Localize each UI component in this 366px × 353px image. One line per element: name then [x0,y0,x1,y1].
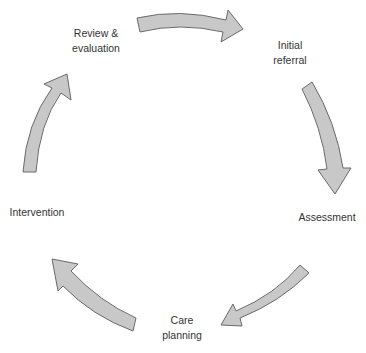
stage-label-line: planning [152,328,212,343]
arrow-review-to-referral [137,10,243,42]
stage-label-line: evaluation [66,41,126,56]
stage-label-line: Initial [260,38,320,53]
stage-label-line: Assessment [294,210,360,225]
stage-label-line: Intervention [4,205,70,220]
arrow-intervention-to-review [23,74,71,172]
arrow-referral-to-assessment [302,82,351,194]
arrow-assessment-to-care [221,265,309,326]
stage-label-initial-referral: Initial referral [260,38,320,68]
stage-label-review-evaluation: Review & evaluation [66,26,126,56]
stage-label-intervention: Intervention [4,205,70,220]
arrow-care-to-intervention [52,259,136,331]
stage-label-line: referral [260,53,320,68]
stage-label-care-planning: Care planning [152,313,212,343]
stage-label-assessment: Assessment [294,210,360,225]
stage-label-line: Review & [66,26,126,41]
stage-label-line: Care [152,313,212,328]
